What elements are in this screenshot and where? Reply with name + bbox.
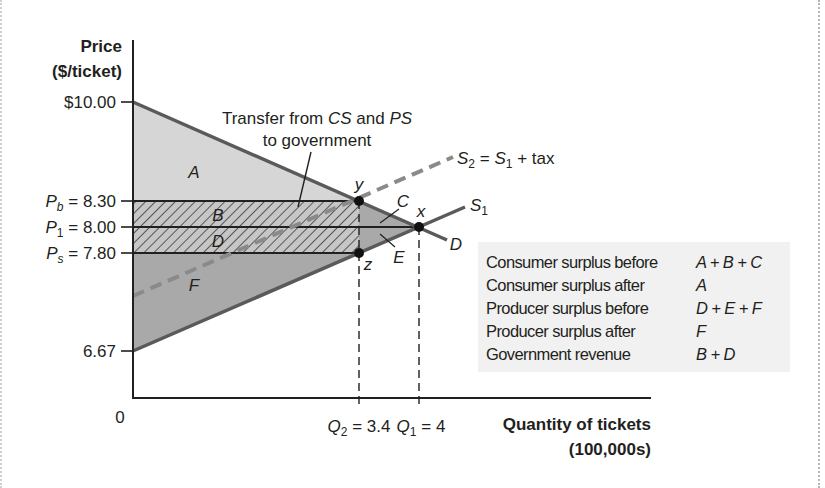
- y-tick-label-10: $10.00: [64, 93, 116, 112]
- surplus-summary-table: Consumer surplus before A + B + C Consum…: [478, 242, 790, 372]
- point-x-marker: [414, 222, 424, 232]
- summary-row-label: Producer surplus before: [486, 297, 696, 320]
- q1-symbol: Q: [397, 417, 410, 436]
- curve-s2-label: S2 = S1 + tax: [457, 149, 555, 171]
- transfer-text-b: and: [352, 109, 390, 128]
- p1-symbol: P: [46, 218, 58, 237]
- y-tick-label-ps: Ps = 7.80: [46, 244, 116, 266]
- y-tick-label-pb: Pb = 8.30: [46, 192, 117, 214]
- q1-value: = 4: [417, 417, 446, 436]
- x-axis-title-line1: Quantity of tickets: [503, 415, 651, 434]
- summary-row-value: F: [696, 320, 705, 343]
- transfer-text-ps: PS: [389, 109, 412, 128]
- p1-value: = 8.00: [64, 218, 116, 237]
- s2-tail: + tax: [512, 149, 555, 168]
- transfer-annotation-line2: to government: [263, 131, 372, 150]
- point-z-marker: [354, 248, 364, 258]
- x-tick-label-q1: Q1 = 4: [397, 417, 446, 439]
- summary-row-label: Producer surplus after: [486, 320, 696, 343]
- region-e-label: E: [393, 248, 405, 267]
- s2-symbol: S: [457, 149, 469, 168]
- pb-symbol: P: [46, 192, 58, 211]
- s1-symbol: S: [470, 196, 482, 215]
- point-z-label: z: [363, 255, 373, 274]
- s2-equals: =: [475, 149, 494, 168]
- summary-row: Government revenue B + D: [486, 343, 790, 366]
- y-axis-title-line2: ($/ticket): [52, 62, 122, 81]
- region-c-label: C: [397, 192, 410, 211]
- region-d-area: [133, 227, 359, 253]
- x-tick-label-q2: Q2 = 3.4: [328, 417, 391, 439]
- summary-row: Consumer surplus after A: [486, 274, 790, 297]
- transfer-text-cs: CS: [328, 109, 352, 128]
- x-axis-title-line2: (100,000s): [569, 440, 651, 459]
- s1-subscript: 1: [481, 204, 488, 218]
- region-f-label: F: [189, 276, 201, 295]
- summary-row: Producer surplus before D + E + F: [486, 297, 790, 320]
- transfer-annotation-line1: Transfer from CS and PS: [222, 109, 413, 128]
- summary-row: Producer surplus after F: [486, 320, 790, 343]
- page-edge-dots: [0, 0, 5, 488]
- y-tick-label-667: 6.67: [83, 342, 116, 361]
- margin-dotted-line: [818, 0, 820, 488]
- point-x-label: x: [416, 202, 426, 221]
- summary-row-label: Consumer surplus before: [486, 251, 696, 274]
- ps-symbol: P: [46, 244, 58, 263]
- pb-value: = 8.30: [64, 192, 116, 211]
- curve-s1-label: S1: [470, 196, 488, 218]
- summary-row-label: Government revenue: [486, 343, 696, 366]
- transfer-text-a: Transfer from: [222, 109, 328, 128]
- ps-value: = 7.80: [64, 244, 116, 263]
- point-y-label: y: [354, 175, 365, 194]
- region-a-label: A: [187, 163, 199, 182]
- q2-symbol: Q: [328, 417, 341, 436]
- region-b-area: [133, 201, 359, 227]
- summary-row-label: Consumer surplus after: [486, 274, 696, 297]
- summary-row-value: A + B + C: [696, 251, 762, 274]
- curve-d-label: D: [450, 235, 462, 254]
- y-tick-label-p1: P1 = 8.00: [46, 218, 117, 240]
- s2-s1-symbol: S: [494, 149, 506, 168]
- summary-row: Consumer surplus before A + B + C: [486, 251, 790, 274]
- summary-row-value: D + E + F: [696, 297, 761, 320]
- y-axis-title-line1: Price: [80, 37, 122, 56]
- region-b-label: B: [212, 206, 223, 225]
- summary-row-value: A: [696, 274, 706, 297]
- summary-row-value: B + D: [696, 343, 735, 366]
- q2-value: = 3.4: [347, 417, 390, 436]
- tax-incidence-chart: Price ($/ticket) $10.00 Pb = 8.30 P1 = 8…: [0, 0, 825, 488]
- origin-label: 0: [115, 408, 124, 427]
- region-d-label: D: [212, 232, 224, 251]
- point-y-marker: [354, 196, 364, 206]
